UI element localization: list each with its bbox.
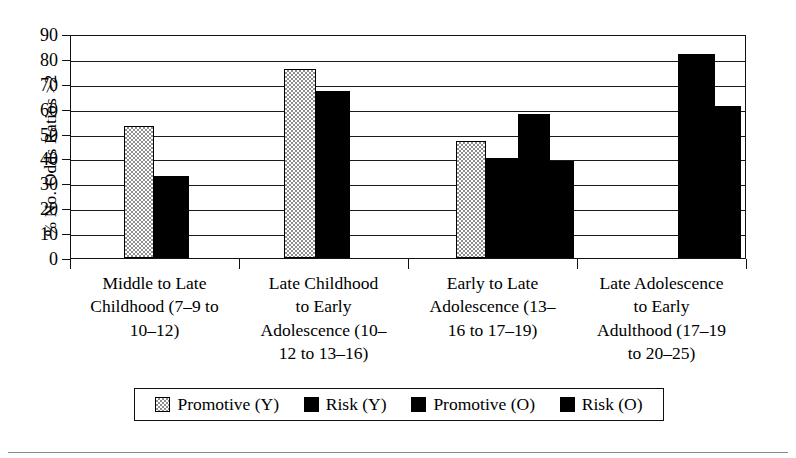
x-tick-mark (70, 259, 71, 269)
legend-item-3[interactable]: Promotive (O) (411, 394, 535, 415)
y-tick-label: 60 (0, 101, 58, 119)
bar-promotive-o-g2 (518, 114, 550, 258)
y-tick-label: 0 (0, 250, 58, 268)
bar-risk-o-g3 (715, 106, 741, 258)
y-tick-label: 10 (0, 225, 58, 243)
legend-item-4[interactable]: Risk (O) (560, 394, 643, 415)
gridline (71, 136, 745, 137)
x-tick-mark (408, 259, 409, 269)
y-tick-label: 90 (0, 26, 58, 44)
legend-swatch-black-icon (304, 397, 319, 412)
x-category-label-line: 12 to 13–16) (239, 342, 408, 365)
x-axis-labels: Middle to LateChildhood (7–9 to10–12)Lat… (70, 272, 746, 377)
x-category-label-line: Adolescence (10– (239, 319, 408, 342)
x-tick-mark (746, 259, 747, 269)
legend-label: Promotive (Y) (177, 394, 279, 415)
bar-chart-figure: % No. Odds Ratios >2 9080706050403020100… (0, 0, 796, 458)
x-category-label-line: Early to Late (408, 272, 577, 295)
y-tick-label: 70 (0, 76, 58, 94)
legend-label: Risk (O) (582, 394, 643, 415)
bar-promotive-o-g3 (678, 54, 715, 258)
bar-risk-y-g2 (486, 158, 518, 258)
legend-label: Promotive (O) (433, 394, 535, 415)
y-tick-label: 80 (0, 51, 58, 69)
x-category-label-line: 16 to 17–19) (408, 319, 577, 342)
bar-promotive-y-g1 (284, 69, 316, 258)
bar-risk-y-g0 (154, 176, 189, 258)
bottom-divider (8, 452, 788, 453)
gridline (71, 111, 745, 112)
x-category-label-line: to Early (239, 295, 408, 318)
x-category-label-line: Late Childhood (239, 272, 408, 295)
gridline (71, 160, 745, 161)
x-tick-mark (239, 259, 240, 269)
plot-area (70, 35, 746, 259)
x-category-label-2: Late Childhoodto EarlyAdolescence (10–12… (239, 272, 408, 365)
x-category-label-line: Adulthood (17–19 (577, 319, 746, 342)
x-category-label-line: to 20–25) (577, 342, 746, 365)
bar-promotive-y-g0 (124, 126, 154, 258)
x-category-label-line: Adolescence (13– (408, 295, 577, 318)
x-category-label-3: Early to LateAdolescence (13–16 to 17–19… (408, 272, 577, 342)
legend-label: Risk (Y) (326, 394, 387, 415)
x-category-label-line: 10–12) (70, 319, 239, 342)
x-category-label-1: Middle to LateChildhood (7–9 to10–12) (70, 272, 239, 342)
gridline (71, 86, 745, 87)
legend-swatch-black-icon (560, 397, 575, 412)
y-tick-label: 50 (0, 126, 58, 144)
bar-promotive-y-g2 (456, 141, 486, 258)
legend-swatch-gray-icon (155, 397, 170, 412)
y-tick-label: 20 (0, 200, 58, 218)
x-category-label-line: Middle to Late (70, 272, 239, 295)
x-category-label-line: to Early (577, 295, 746, 318)
legend: Promotive (Y)Risk (Y)Promotive (O)Risk (… (134, 388, 664, 421)
legend-swatch-black-icon (411, 397, 426, 412)
x-category-label-line: Childhood (7–9 to (70, 295, 239, 318)
x-tick-mark (577, 259, 578, 269)
legend-item-1[interactable]: Promotive (Y) (155, 394, 279, 415)
x-category-label-4: Late Adolescenceto EarlyAdulthood (17–19… (577, 272, 746, 365)
gridline (71, 61, 745, 62)
legend-item-2[interactable]: Risk (Y) (304, 394, 387, 415)
y-tick-label: 30 (0, 175, 58, 193)
x-category-label-line: Late Adolescence (577, 272, 746, 295)
y-tick-label: 40 (0, 150, 58, 168)
bar-risk-o-g2 (550, 161, 574, 258)
bar-risk-y-g1 (316, 91, 350, 258)
